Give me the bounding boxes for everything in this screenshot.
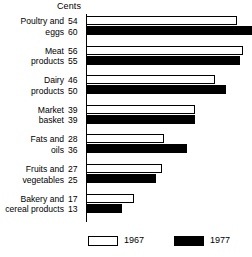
bar-group: Poultry and eggs5460 (0, 16, 252, 40)
bar-1977 (86, 85, 226, 94)
bar-1967 (86, 46, 243, 55)
value-labels: 2836 (68, 134, 83, 155)
bar-1967 (86, 16, 237, 25)
legend-label-1967: 1967 (124, 235, 144, 246)
bar-1967 (86, 105, 195, 114)
category-label: Bakery and cereal products (0, 194, 64, 215)
value-label-1967: 28 (68, 134, 83, 145)
bar-1977 (86, 204, 122, 213)
bar-chart: Cents Poultry and eggs5460Meat products5… (0, 0, 252, 257)
value-labels: 2725 (68, 164, 83, 185)
chart-legend: 1967 1977 (0, 234, 252, 250)
bar-group: Fruits and vegetables2725 (0, 164, 252, 188)
bar-1977 (86, 56, 240, 65)
value-label-1977: 60 (68, 27, 83, 38)
bar-1977 (86, 115, 195, 124)
value-label-1977: 13 (68, 204, 83, 215)
value-labels: 3939 (68, 105, 83, 126)
category-label: Dairy products (0, 75, 64, 96)
plot-area: Poultry and eggs5460Meat products5655Dai… (0, 14, 252, 226)
bar-1967 (86, 194, 134, 203)
value-label-1977: 36 (68, 145, 83, 156)
value-label-1967: 27 (68, 164, 83, 175)
bar-1967 (86, 134, 164, 143)
bar-group: Bakery and cereal products1713 (0, 194, 252, 218)
open-rectangle-icon (88, 236, 118, 246)
value-label-1967: 56 (68, 46, 83, 57)
value-label-1967: 54 (68, 16, 83, 27)
value-label-1977: 50 (68, 86, 83, 97)
value-label-1967: 46 (68, 75, 83, 86)
bar-1977 (86, 144, 187, 153)
bar-1977 (86, 26, 252, 35)
value-labels: 1713 (68, 194, 83, 215)
legend-label-1977: 1977 (210, 235, 230, 246)
value-label-1977: 39 (68, 115, 83, 126)
value-labels: 4650 (68, 75, 83, 96)
value-label-1977: 55 (68, 56, 83, 67)
category-label: Fruits and vegetables (0, 164, 64, 185)
value-label-1967: 39 (68, 105, 83, 116)
axis-title-cents: Cents (57, 1, 81, 12)
value-labels: 5655 (68, 46, 83, 67)
category-label: Fats and oils (0, 134, 64, 155)
bar-1977 (86, 174, 156, 183)
bar-1967 (86, 75, 215, 84)
value-labels: 5460 (68, 16, 83, 37)
category-label: Poultry and eggs (0, 16, 64, 37)
category-label: Market basket (0, 105, 64, 126)
bar-group: Market basket3939 (0, 105, 252, 129)
filled-rectangle-icon (174, 236, 204, 246)
bar-1967 (86, 164, 162, 173)
bar-group: Meat products5655 (0, 46, 252, 70)
value-label-1967: 17 (68, 194, 83, 205)
bar-group: Fats and oils2836 (0, 134, 252, 158)
category-label: Meat products (0, 46, 64, 67)
value-label-1977: 25 (68, 175, 83, 186)
bar-group: Dairy products4650 (0, 75, 252, 99)
